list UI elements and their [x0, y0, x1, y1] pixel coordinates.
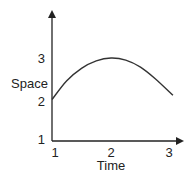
y-tick-3: 3 [38, 51, 45, 66]
x-axis-label: Time [97, 158, 125, 173]
y-axis-label: Space [11, 76, 48, 91]
x-tick-3: 3 [165, 145, 172, 160]
chart: 3 2 1 Space 1 2 3 Time [0, 0, 190, 180]
x-tick-1: 1 [51, 145, 58, 160]
y-tick-2: 2 [38, 94, 45, 109]
y-tick-1: 1 [38, 132, 45, 147]
data-curve [52, 58, 173, 100]
